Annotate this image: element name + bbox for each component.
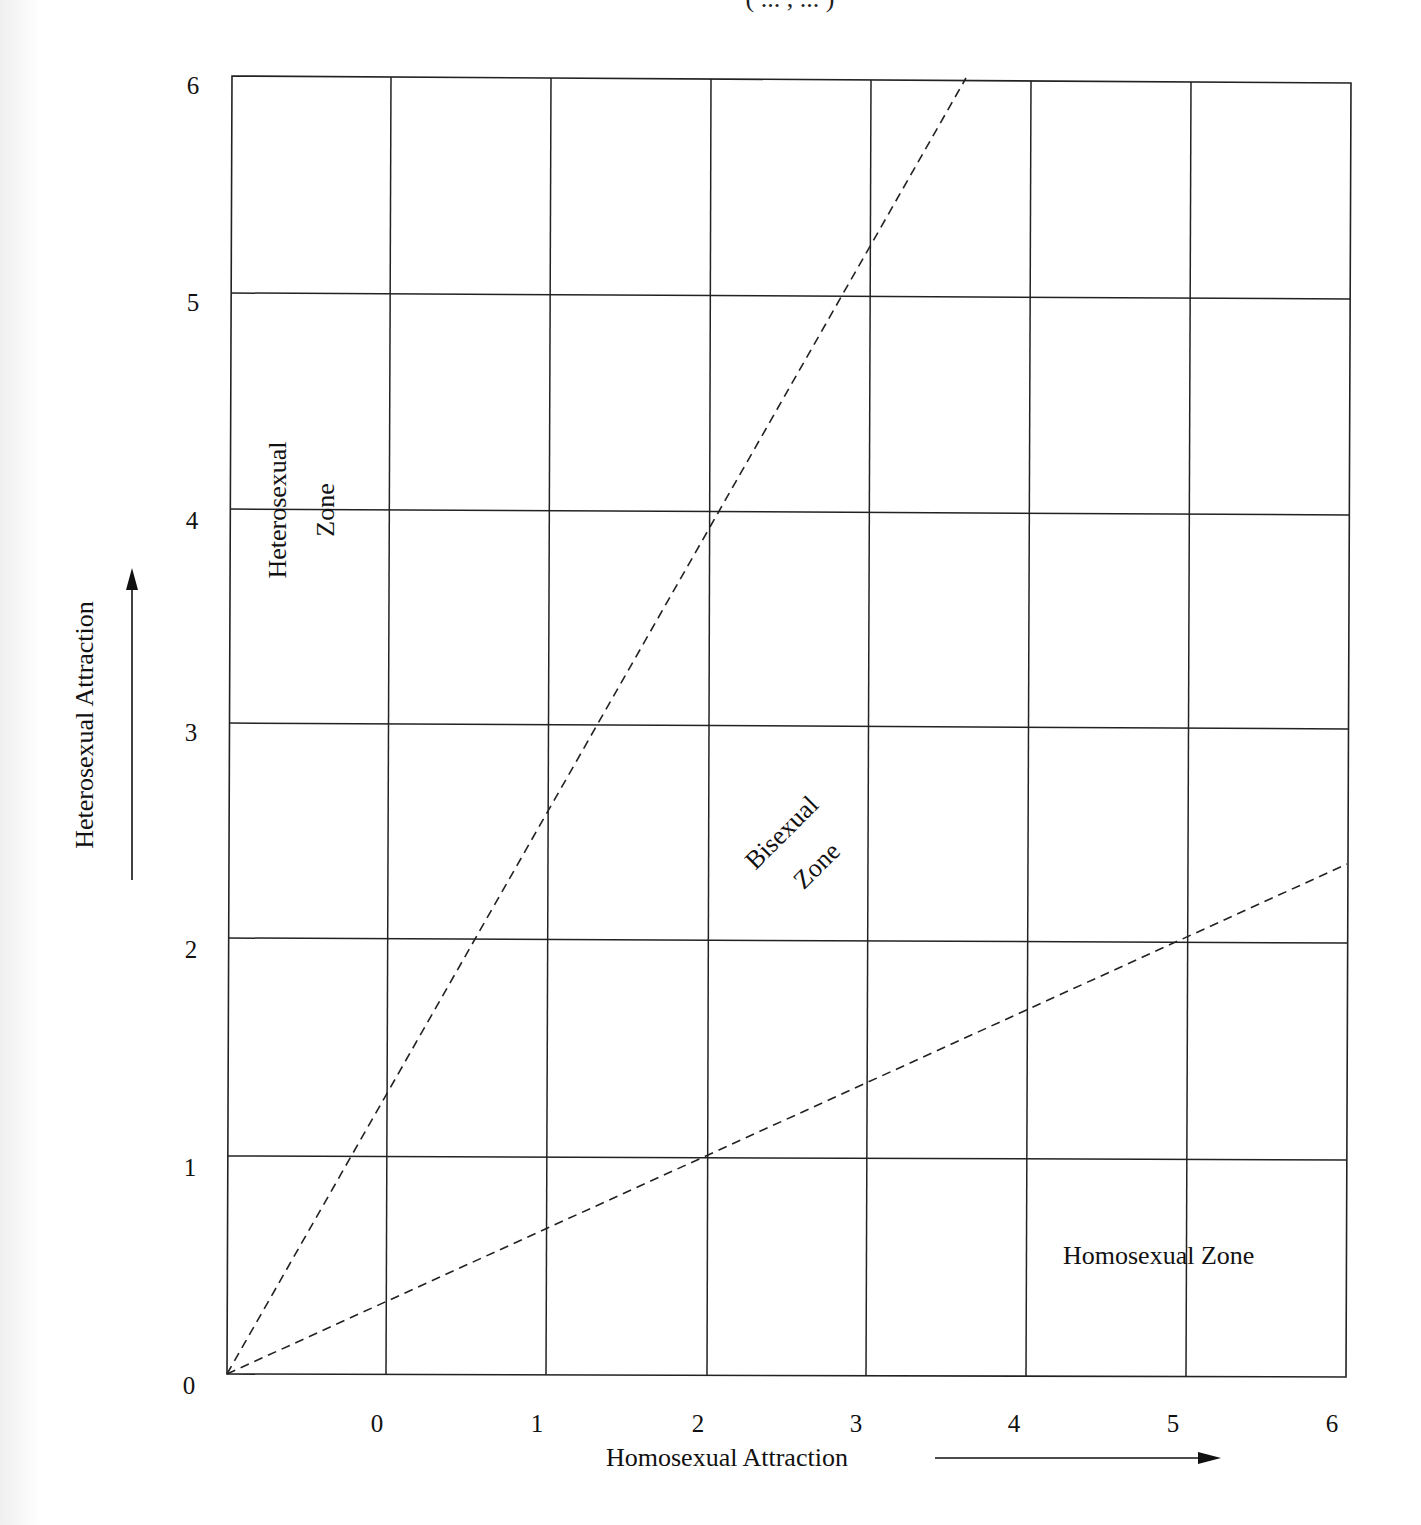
arrow-right-icon xyxy=(1198,1452,1221,1464)
attraction-grid-diagram xyxy=(0,0,1421,1525)
y-tick-0: 0 xyxy=(174,1372,204,1400)
y-tick-2: 2 xyxy=(176,936,206,964)
homosexual-zone-label: Homosexual Zone xyxy=(1063,1241,1254,1271)
y-axis-title: Heterosexual Attraction xyxy=(70,601,100,849)
x-tick-0: 0 xyxy=(362,1410,392,1438)
y-tick-5: 5 xyxy=(178,289,208,317)
y-tick-1: 1 xyxy=(175,1154,205,1182)
x-tick-5: 5 xyxy=(1158,1410,1188,1438)
heterosexual-zone-label-line1: Heterosexual xyxy=(263,441,293,578)
y-axis-arrow xyxy=(126,568,138,880)
y-tick-6: 6 xyxy=(178,72,208,100)
x-tick-3: 3 xyxy=(841,1410,871,1438)
x-tick-6: 6 xyxy=(1317,1410,1347,1438)
x-tick-2: 2 xyxy=(683,1410,713,1438)
x-tick-1: 1 xyxy=(522,1410,552,1438)
x-axis-arrow xyxy=(935,1452,1221,1464)
heterosexual-zone-label-line2: Zone xyxy=(311,483,341,536)
y-tick-4: 4 xyxy=(177,507,207,535)
horizontal-grid-lines xyxy=(228,293,1350,1160)
x-tick-4: 4 xyxy=(999,1410,1029,1438)
y-tick-3: 3 xyxy=(176,719,206,747)
arrow-up-icon xyxy=(126,568,138,590)
x-axis-title: Homosexual Attraction xyxy=(606,1443,848,1473)
